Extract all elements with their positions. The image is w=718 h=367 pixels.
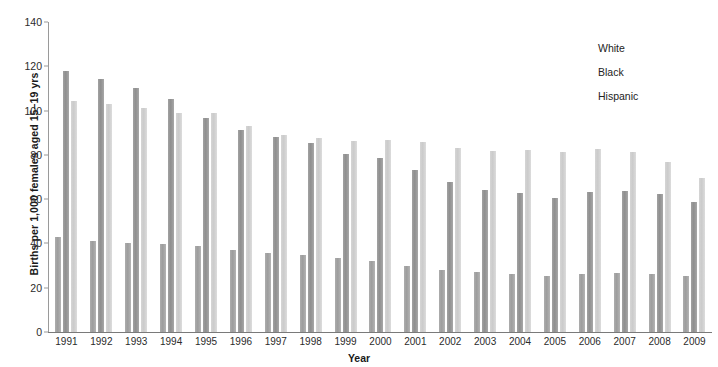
bar-group (468, 22, 503, 332)
bar-black-2004 (516, 192, 524, 332)
y-tick-label: 0 (36, 326, 42, 338)
bar-white-2007 (613, 272, 621, 332)
bar-group (642, 22, 677, 332)
y-tick-label: 60 (30, 193, 42, 205)
legend-swatch-icon (578, 89, 591, 102)
bar-group (258, 22, 293, 332)
x-tick-label: 2002 (433, 336, 468, 347)
bar-white-1995 (194, 245, 202, 332)
y-axis-title: Births per 1,000 females aged 15–19 yrs (28, 44, 40, 304)
bar-group (398, 22, 433, 332)
y-tick-label: 40 (30, 237, 42, 249)
legend-item-hispanic[interactable]: Hispanic (578, 86, 638, 105)
bar-hispanic-2004 (524, 149, 532, 332)
bar-black-1998 (307, 142, 315, 332)
bar-black-2000 (376, 157, 384, 332)
bar-black-1997 (272, 136, 280, 332)
x-tick-label: 2006 (572, 336, 607, 347)
x-tick-label: 1998 (293, 336, 328, 347)
bar-white-2009 (682, 275, 690, 332)
legend-swatch-icon (578, 65, 591, 78)
x-tick-label: 2005 (537, 336, 572, 347)
bar-white-1999 (334, 257, 342, 333)
bar-white-2002 (438, 269, 446, 332)
bar-black-2008 (656, 193, 664, 332)
bar-hispanic-2002 (454, 147, 462, 332)
y-tick-mark (44, 199, 48, 200)
bar-hispanic-1996 (245, 125, 253, 332)
bar-hispanic-2000 (384, 139, 392, 332)
bar-white-1996 (229, 249, 237, 332)
bar-hispanic-1999 (350, 140, 358, 332)
y-tick-label: 100 (24, 105, 42, 117)
bar-black-2001 (411, 169, 419, 332)
x-tick-label: 1996 (223, 336, 258, 347)
bar-hispanic-1992 (105, 103, 113, 332)
bar-group (49, 22, 84, 332)
bar-hispanic-2007 (629, 151, 637, 332)
bar-black-1996 (237, 129, 245, 332)
bar-hispanic-2009 (698, 177, 706, 332)
bar-group (363, 22, 398, 332)
bar-hispanic-1998 (315, 137, 323, 332)
bar-black-2002 (446, 181, 454, 332)
bar-white-2006 (578, 273, 586, 332)
bar-white-2005 (543, 275, 551, 332)
bar-white-2003 (473, 271, 481, 332)
y-tick-mark (44, 287, 48, 288)
x-axis-line (48, 332, 712, 333)
bar-hispanic-2006 (594, 148, 602, 332)
x-tick-label: 2009 (677, 336, 712, 347)
bar-group (223, 22, 258, 332)
x-axis-title: Year (0, 352, 718, 364)
bar-black-1993 (132, 87, 140, 332)
bar-hispanic-1997 (280, 134, 288, 332)
bar-black-2005 (551, 197, 559, 332)
bar-white-2004 (508, 273, 516, 332)
legend-item-black[interactable]: Black (578, 62, 638, 81)
bar-white-1997 (264, 252, 272, 332)
x-tick-label: 1991 (49, 336, 84, 347)
x-tick-label: 1995 (189, 336, 224, 347)
bar-hispanic-1993 (140, 107, 148, 332)
x-tick-label: 2004 (503, 336, 538, 347)
y-tick-mark (44, 154, 48, 155)
y-tick-mark (44, 22, 48, 23)
x-tick-label: 2008 (642, 336, 677, 347)
bar-hispanic-2003 (489, 150, 497, 332)
legend-label: White (598, 42, 625, 54)
y-tick-label: 140 (24, 16, 42, 28)
x-tick-label: 2000 (363, 336, 398, 347)
bar-white-1991 (54, 236, 62, 332)
bar-black-1994 (167, 98, 175, 332)
x-tick-label: 2007 (607, 336, 642, 347)
y-tick-label: 80 (30, 149, 42, 161)
bar-group (119, 22, 154, 332)
x-tick-label: 1992 (84, 336, 119, 347)
x-tick-label: 2001 (398, 336, 433, 347)
legend-swatch-icon (578, 41, 591, 54)
bar-white-2001 (403, 265, 411, 332)
y-tick-mark (44, 110, 48, 111)
bar-white-1994 (159, 243, 167, 332)
legend-item-white[interactable]: White (578, 38, 638, 57)
bar-black-1991 (62, 70, 70, 332)
y-tick-mark (44, 66, 48, 67)
x-tick-label: 2003 (468, 336, 503, 347)
bar-group (293, 22, 328, 332)
x-tick-label: 1993 (119, 336, 154, 347)
bar-group (189, 22, 224, 332)
bar-group (328, 22, 363, 332)
bar-hispanic-1995 (210, 112, 218, 332)
x-tick-label: 1999 (328, 336, 363, 347)
bar-black-1995 (202, 117, 210, 332)
bar-chart: Births per 1,000 females aged 15–19 yrs … (0, 0, 718, 367)
bar-white-1993 (124, 242, 132, 332)
bar-group (433, 22, 468, 332)
y-tick-mark (44, 332, 48, 333)
bar-group (84, 22, 119, 332)
y-tick-label: 120 (24, 60, 42, 72)
bar-group (537, 22, 572, 332)
bar-group (503, 22, 538, 332)
bar-black-2009 (690, 201, 698, 332)
